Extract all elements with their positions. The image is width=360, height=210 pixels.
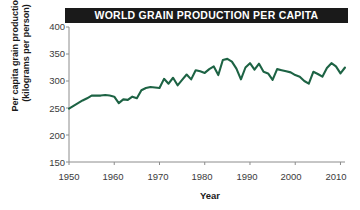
- plot-area: [0, 0, 360, 210]
- axis-lines: [69, 27, 345, 162]
- data-series-line: [69, 59, 345, 109]
- chart-container: WORLD GRAIN PRODUCTION PER CAPITA Per ca…: [0, 0, 360, 210]
